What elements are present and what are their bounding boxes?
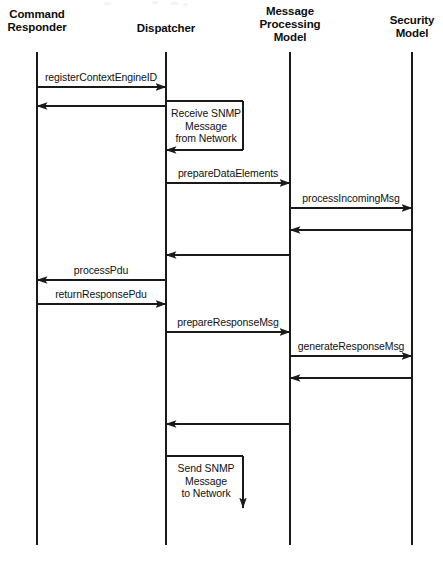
diagram-canvas — [0, 0, 443, 561]
scan-artifact-1 — [152, 1, 158, 4]
self-message-send-snmp-message-to-network — [166, 456, 243, 508]
scan-artifact-3 — [183, 3, 188, 6]
scan-artifact-0 — [104, 2, 111, 5]
messages-group — [37, 87, 412, 508]
scan-artifact-2 — [170, 2, 179, 5]
sequence-diagram: Command ResponderDispatcherMessage Proce… — [0, 0, 443, 561]
self-message-receive-snmp-message-from-network — [166, 101, 243, 150]
lifelines-group — [37, 52, 412, 545]
